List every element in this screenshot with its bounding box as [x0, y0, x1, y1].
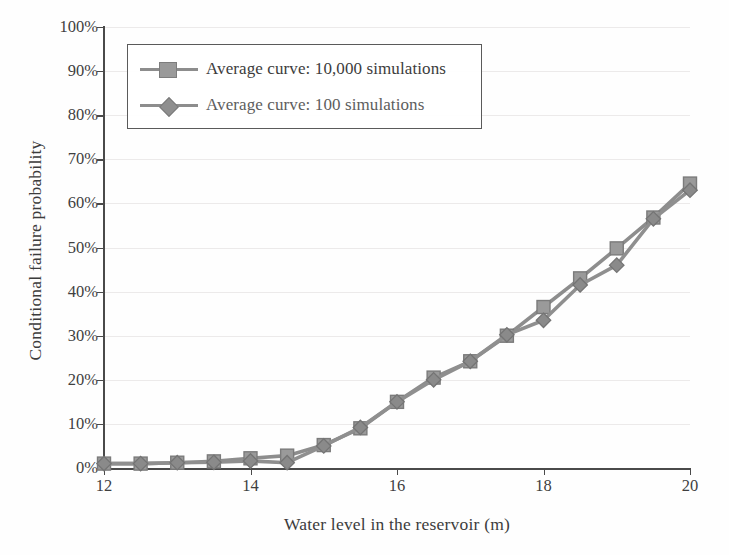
legend-label: Average curve: 100 simulations	[206, 95, 424, 115]
y-tick-label: 20%	[40, 370, 98, 390]
legend: Average curve: 10,000 simulations Averag…	[127, 44, 482, 129]
square-marker-icon	[138, 59, 200, 79]
series-line-10000-simulations	[98, 177, 697, 470]
x-tick-label: 18	[524, 476, 564, 496]
y-tick-label: 100%	[40, 17, 98, 37]
x-tick-label: 16	[377, 476, 417, 496]
y-tick-label: 70%	[40, 149, 98, 169]
series-polyline	[104, 184, 690, 464]
x-axis-title: Water level in the reservoir (m)	[104, 514, 690, 535]
y-tick-label: 50%	[40, 238, 98, 258]
chart-figure: Conditional failure probability Water le…	[0, 0, 729, 555]
y-tick-label: 40%	[40, 282, 98, 302]
y-tick-label: 10%	[40, 414, 98, 434]
x-tick-label: 12	[84, 476, 124, 496]
y-tick-label: 0%	[40, 458, 98, 478]
plot-area: Average curve: 10,000 simulations Averag…	[104, 27, 690, 468]
legend-item-100-simulations[interactable]: Average curve: 100 simulations	[138, 90, 424, 120]
legend-item-10000-simulations[interactable]: Average curve: 10,000 simulations	[138, 54, 446, 84]
x-tick-label: 20	[670, 476, 710, 496]
series-line-100-simulations	[97, 183, 697, 471]
data-point-square	[610, 242, 623, 255]
y-tick-label: 60%	[40, 193, 98, 213]
series-polyline	[104, 190, 690, 463]
diamond-marker-icon	[138, 95, 200, 115]
legend-label: Average curve: 10,000 simulations	[206, 59, 446, 79]
y-tick-label: 80%	[40, 105, 98, 125]
x-tick-label: 14	[231, 476, 271, 496]
y-tick-label: 90%	[40, 61, 98, 81]
y-axis-tick-labels: 0% 10% 20% 30% 40% 50% 60% 70% 80% 90% 1…	[34, 0, 98, 555]
x-axis-line	[103, 468, 691, 470]
y-tick-label: 30%	[40, 326, 98, 346]
data-point-square	[537, 301, 550, 314]
